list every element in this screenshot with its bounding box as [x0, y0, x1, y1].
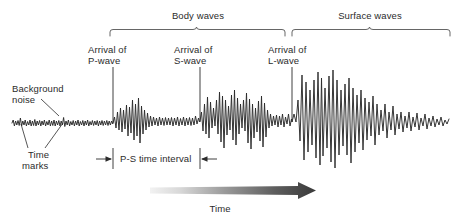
ps-time-interval-label: P-S time interval [120, 153, 191, 164]
ps-interval-arrow-right [201, 156, 208, 162]
body-waves-bracket [110, 27, 285, 36]
time-marks-label-line1: Time [28, 149, 49, 161]
time-marks-leader-left [21, 124, 28, 148]
l-wave-arrival-label-line2: L-wave [268, 55, 299, 67]
ps-interval-arrow-left [106, 156, 113, 162]
time-marks-leader-right [45, 123, 63, 148]
time-marks-label-line2: marks [22, 160, 48, 172]
background-noise-leader [41, 99, 59, 116]
s-wave-arrival-label-line1: Arrival of [174, 44, 212, 56]
surface-waves-bracket [292, 27, 450, 36]
time-axis-arrow [150, 182, 316, 199]
time-axis-label: Time [190, 203, 250, 214]
seismogram-trace [12, 70, 449, 168]
seismogram-figure: Body waves Surface waves Arrival of P-wa… [0, 0, 455, 224]
background-noise-label-line1: Background [12, 83, 64, 95]
s-wave-arrival-label-line2: S-wave [174, 55, 206, 67]
p-wave-arrival-label-line1: Arrival of [88, 44, 126, 56]
surface-waves-label: Surface waves [320, 10, 420, 21]
background-noise-label-line2: noise [12, 94, 35, 106]
body-waves-label: Body waves [148, 10, 248, 21]
p-wave-arrival-label-line2: P-wave [88, 55, 120, 67]
l-wave-arrival-label-line1: Arrival of [268, 44, 306, 56]
seismogram-canvas [0, 0, 455, 224]
